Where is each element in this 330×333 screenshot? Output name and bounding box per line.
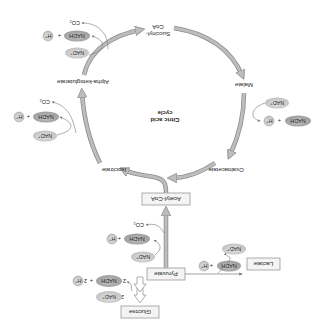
oxaloacetate-label: Oxaloacetate: [208, 167, 244, 173]
h-label: H⁺: [201, 263, 208, 269]
h-coef: 2: [84, 278, 87, 284]
h-label: H⁺: [109, 236, 116, 242]
nad-label: NAD⁺: [38, 133, 53, 139]
co2-label: CO₂: [134, 222, 144, 228]
plus-sign: +: [58, 33, 61, 39]
nadh-label: NADH: [101, 278, 117, 284]
plus-sign: +: [118, 236, 121, 242]
alpha-ketoglutarate-label: Alpha-ketoglutarate: [56, 79, 109, 85]
isocitrate-dh-cofactors: NAD⁺ NADH + H⁺ CO₂: [14, 99, 76, 142]
co2-label: CO₂: [40, 99, 50, 105]
glycolysis-cofactors: 2 NAD⁺ 2 NADH + 2 H⁺: [73, 275, 132, 303]
lactate-box: Lactate: [247, 258, 280, 270]
pyruvate-label: Pyruvate: [154, 271, 178, 277]
pdh-cofactors: NAD⁺ NADH + H⁺ CO₂: [107, 222, 164, 263]
rotated-diagram-group: Glucose 2 NAD⁺ 2 NADH + 2 H⁺ Pyruvate: [14, 20, 311, 318]
h-label: H⁺: [45, 33, 52, 39]
isocitrate-label: Isocitrate: [101, 167, 126, 173]
plus-sign: +: [210, 263, 213, 269]
nadh-label: NADH: [129, 236, 145, 242]
nad-label: NAD⁺: [136, 254, 151, 260]
lactate-branch: NADH + H⁺ NAD⁺: [185, 244, 246, 275]
cycle-title-line1: Citric acid: [150, 117, 179, 123]
succinyl-coa-label-line1: Succinyl-: [146, 31, 170, 37]
akg-dh-arrow: [84, 30, 140, 75]
nadh-label: NADH: [38, 114, 54, 120]
diagram-canvas: Glucose 2 NAD⁺ 2 NADH + 2 H⁺ Pyruvate: [0, 0, 330, 333]
plus-sign: +: [90, 278, 93, 284]
h-label: H⁺: [16, 114, 23, 120]
cycle-title-line2: cycle: [157, 110, 173, 116]
plus-sign: +: [278, 118, 281, 124]
nad-label: NAD⁺: [227, 246, 242, 252]
succinyl-coa-label-line2: CoA: [152, 24, 164, 30]
nadh-label: NADH: [290, 118, 306, 124]
plus-sign: +: [27, 114, 30, 120]
nad-label: NAD⁺: [70, 50, 85, 56]
h-label: H⁺: [75, 278, 82, 284]
nad-label: NAD⁺: [102, 294, 117, 300]
glucose-box: Glucose: [121, 306, 159, 318]
acetyl-coa-label: Acetyl-CoA: [151, 196, 181, 202]
succinyl-to-malate-arrow: [174, 28, 242, 75]
glycolysis-arrow: [134, 277, 146, 303]
acetyl-coa-box: Acetyl-CoA: [142, 193, 190, 205]
lactate-label: Lactate: [253, 261, 273, 267]
nadh-label: NADH: [69, 33, 85, 39]
malate-label: Malate: [234, 82, 253, 88]
citric-acid-cycle-diagram: Glucose 2 NAD⁺ 2 NADH + 2 H⁺ Pyruvate: [0, 0, 330, 333]
malate-dh-cofactors: NAD⁺ H⁺ + NADH: [253, 98, 311, 127]
glucose-label: Glucose: [128, 309, 151, 315]
pyruvate-box: Pyruvate: [147, 268, 185, 280]
nad-label: NAD⁺: [270, 100, 285, 106]
h-label: H⁺: [266, 118, 273, 124]
co2-label: CO₂: [70, 20, 80, 26]
nadh-coef: 2: [123, 278, 126, 284]
